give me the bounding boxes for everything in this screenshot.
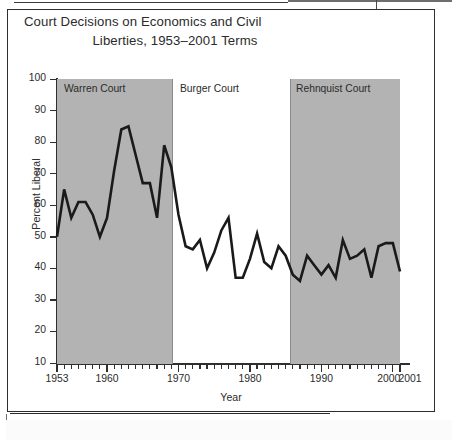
y-tick-100 (50, 79, 57, 80)
page-crop-mark (376, 0, 377, 9)
x-tick-1978 (235, 364, 236, 369)
y-tick-40 (50, 268, 57, 269)
x-tick-1974 (206, 364, 207, 369)
x-tick-1986 (292, 364, 293, 369)
x-tick-label-2000: 2000 (377, 373, 400, 384)
page-bottom-margin (6, 420, 452, 440)
x-tick-label-1980: 1980 (238, 373, 261, 384)
x-tick-1991 (328, 364, 329, 369)
page-top-rule-right (288, 0, 452, 2)
x-tick-1980 (249, 364, 250, 372)
x-tick-1988 (307, 364, 308, 369)
y-tick-90 (50, 110, 57, 111)
x-tick-1997 (371, 364, 372, 369)
x-tick-1961 (114, 364, 115, 369)
x-tick-1971 (185, 364, 186, 369)
x-tick-1982 (264, 364, 265, 369)
x-tick-1967 (156, 364, 157, 369)
x-tick-1956 (78, 364, 79, 369)
x-tick-label-2001: 2001 (398, 373, 421, 384)
x-tick-1984 (278, 364, 279, 369)
y-tick-label-90: 90 (18, 104, 46, 115)
x-tick-1996 (364, 364, 365, 369)
x-tick-1962 (121, 364, 122, 369)
era-divider-warren-burger (172, 79, 173, 364)
page-title: Court Decisions on Economics and Civil L… (24, 12, 354, 50)
x-tick-1970 (178, 364, 179, 372)
era-label-warren: Warren Court (64, 83, 125, 94)
y-tick-label-40: 40 (18, 261, 46, 272)
x-tick-2001 (399, 364, 400, 372)
x-tick-1960 (106, 364, 107, 372)
x-tick-1957 (85, 364, 86, 369)
y-tick-20 (50, 331, 57, 332)
x-tick-1964 (135, 364, 136, 369)
x-tick-1990 (321, 364, 322, 372)
x-tick-label-1990: 1990 (310, 373, 333, 384)
x-tick-1966 (149, 364, 150, 369)
era-label-rehnquist: Rehnquist Court (296, 83, 370, 94)
y-tick-label-30: 30 (18, 293, 46, 304)
x-tick-label-1960: 1960 (95, 373, 118, 384)
x-axis-title: Year (0, 391, 452, 403)
page-top-rule (14, 2, 288, 3)
x-tick-1981 (256, 364, 257, 369)
x-tick-label-1953: 1953 (45, 373, 68, 384)
era-divider-burger-rehnquist (290, 79, 291, 364)
y-tick-50 (50, 236, 57, 237)
x-tick-1994 (349, 364, 350, 369)
x-tick-1987 (299, 364, 300, 369)
y-tick-70 (50, 173, 57, 174)
plot-area (57, 79, 400, 364)
y-axis-title: Percent Liberal (30, 134, 42, 254)
chart-title-line-2: Liberties, 1953–2001 Terms (24, 31, 354, 50)
x-tick-1977 (228, 364, 229, 369)
x-tick-1989 (314, 364, 315, 369)
x-tick-1959 (99, 364, 100, 369)
y-tick-80 (50, 142, 57, 143)
era-band-warren (57, 79, 172, 364)
x-tick-1954 (64, 364, 65, 369)
x-tick-1965 (142, 364, 143, 369)
y-tick-label-100: 100 (18, 72, 46, 83)
x-tick-1958 (92, 364, 93, 369)
x-tick-1999 (385, 364, 386, 369)
x-tick-label-1970: 1970 (167, 373, 190, 384)
x-tick-1983 (271, 364, 272, 369)
era-label-burger: Burger Court (180, 83, 239, 94)
x-tick-1968 (164, 364, 165, 369)
x-tick-1973 (199, 364, 200, 369)
page-bottom-rule (10, 413, 330, 414)
x-tick-1955 (71, 364, 72, 369)
x-tick-1975 (214, 364, 215, 369)
x-tick-1993 (342, 364, 343, 369)
x-tick-1972 (192, 364, 193, 369)
era-band-rehnquist (290, 79, 400, 364)
x-tick-1963 (128, 364, 129, 369)
x-tick-1979 (242, 364, 243, 369)
chart-title-line-1: Court Decisions on Economics and Civil (24, 12, 354, 31)
x-tick-1953 (56, 364, 57, 372)
x-tick-1976 (221, 364, 222, 369)
x-tick-1998 (378, 364, 379, 369)
x-tick-1995 (357, 364, 358, 369)
x-tick-1969 (171, 364, 172, 369)
x-tick-1992 (335, 364, 336, 369)
y-tick-60 (50, 205, 57, 206)
x-tick-2000 (392, 364, 393, 372)
y-tick-label-10: 10 (18, 356, 46, 367)
y-tick-30 (50, 299, 57, 300)
x-tick-1985 (285, 364, 286, 369)
y-tick-label-20: 20 (18, 324, 46, 335)
